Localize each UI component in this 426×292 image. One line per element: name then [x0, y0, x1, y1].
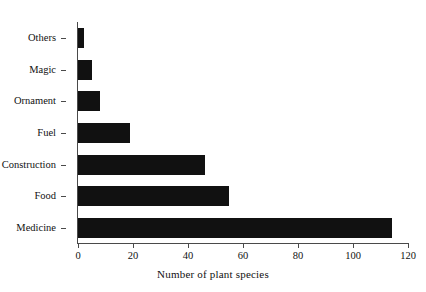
y-tick-mark: [61, 70, 66, 71]
bar-construction: [78, 155, 205, 175]
x-tick-mark: [353, 244, 354, 248]
y-tick-mark: [61, 101, 66, 102]
y-tick-mark: [61, 196, 66, 197]
x-axis-ticks: 020406080100120: [78, 244, 409, 268]
y-axis-label-fuel: Fuel: [37, 128, 56, 138]
x-tick-mark: [243, 244, 244, 248]
bar-ornament: [78, 91, 100, 111]
bar-fill: [78, 218, 392, 238]
bar-fill: [78, 155, 205, 175]
y-tick-mark: [61, 165, 66, 166]
x-tick-mark: [408, 244, 409, 248]
x-tick-mark: [133, 244, 134, 248]
y-axis-label-ornament: Ornament: [14, 96, 56, 106]
plot-area: [78, 22, 408, 244]
bar-chart-figure: OthersMagicOrnamentFuelConstructionFoodM…: [0, 0, 426, 292]
y-axis-label-food: Food: [34, 191, 56, 201]
bar-magic: [78, 60, 92, 80]
x-tick-mark: [188, 244, 189, 248]
bar-fill: [78, 186, 229, 206]
x-tick-label-40: 40: [183, 250, 194, 261]
y-tick-mark: [61, 133, 66, 134]
x-tick-mark: [78, 244, 79, 248]
bar-others: [78, 28, 84, 48]
y-axis-label-construction: Construction: [2, 160, 56, 170]
bar-fill: [78, 28, 84, 48]
y-tick-mark: [61, 38, 66, 39]
x-tick-label-120: 120: [400, 250, 416, 261]
bar-fuel: [78, 123, 130, 143]
bar-fill: [78, 91, 100, 111]
y-axis-label-others: Others: [28, 33, 56, 43]
y-axis-label-medicine: Medicine: [16, 223, 56, 233]
x-tick-label-0: 0: [75, 250, 80, 261]
x-tick-label-100: 100: [345, 250, 361, 261]
y-axis-label-magic: Magic: [29, 65, 56, 75]
x-tick-label-80: 80: [293, 250, 304, 261]
bar-food: [78, 186, 229, 206]
x-tick-mark: [298, 244, 299, 248]
bar-medicine: [78, 218, 392, 238]
x-tick-label-20: 20: [128, 250, 139, 261]
y-axis-labels: OthersMagicOrnamentFuelConstructionFoodM…: [0, 22, 66, 244]
bar-fill: [78, 123, 130, 143]
bar-fill: [78, 60, 92, 80]
y-tick-mark: [61, 228, 66, 229]
x-axis-title: Number of plant species: [0, 268, 426, 280]
x-tick-label-60: 60: [238, 250, 249, 261]
